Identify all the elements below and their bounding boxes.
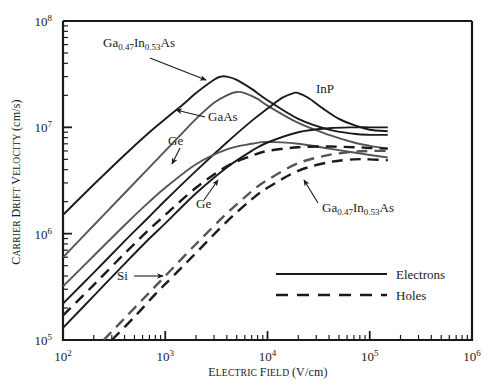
label-inp-electrons: InP — [316, 81, 334, 96]
label-si-electrons: Si — [117, 268, 128, 283]
label-gainas-electrons: Ga0.47In0.53As — [103, 35, 175, 52]
legend-label-holes: Holes — [396, 288, 426, 303]
x-axis-title: ELECTRIC FIELD (V/cm) — [208, 365, 328, 379]
label-gaas-electrons: GaAs — [208, 109, 238, 124]
figure-carrier-drift-velocity: 105106107108 102103104105106 Ga0.47In0.5… — [0, 0, 502, 392]
chart-svg: 105106107108 102103104105106 Ga0.47In0.5… — [0, 0, 502, 392]
label-ge-electrons: Ge — [168, 133, 183, 148]
label-ge-holes: Ge — [196, 196, 211, 211]
label-gainas-holes: Ga0.47In0.53As — [322, 200, 394, 217]
y-axis-title: CARRIER DRIFT VELOCITY (cm/s) — [9, 99, 23, 265]
legend-label-electrons: Electrons — [396, 267, 445, 282]
chart-background — [0, 0, 502, 392]
